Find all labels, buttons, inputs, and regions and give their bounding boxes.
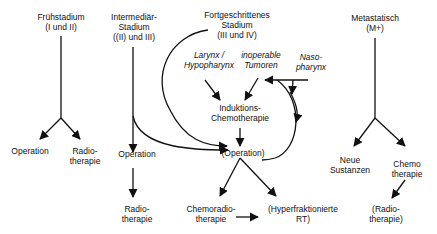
node-met-rt-line2: therapie) xyxy=(369,214,403,224)
node-early-rt-line2: therapie xyxy=(70,156,101,166)
node-hyperfrac-line2: RT) xyxy=(268,214,338,224)
edge-advanced-to-opt-op xyxy=(162,30,227,146)
node-new-subst-line1: Neue xyxy=(330,155,370,165)
subgroup-inoperable-line1: inoperable xyxy=(241,50,281,60)
edge-opt-op-hyperfrac xyxy=(240,158,276,196)
node-induction-line2: Chemotherapie xyxy=(211,113,269,123)
stage-intermediate-title: Intermediär- Stadium ((II) und III) xyxy=(111,12,157,42)
stage-metastatic-line2: (M+) xyxy=(351,23,399,33)
stage-metastatic-title: Metastatisch (M+) xyxy=(351,13,399,33)
node-chemoradiotherapy: Chemoradio- therapie xyxy=(186,204,235,224)
node-metastatic-chemotherapy: Chemo therapie xyxy=(392,159,423,179)
subgroup-nasopharynx: Naso- pharynx xyxy=(296,52,326,72)
node-new-subst-line2: Sustanzen xyxy=(330,165,370,175)
subgroup-inoperable-line2: Tumoren xyxy=(241,60,281,70)
edge-early-operation xyxy=(40,118,61,139)
edge-early-radiotherapy xyxy=(61,118,80,139)
stage-advanced-title: Fortgeschrittenes Stadium (III und IV) xyxy=(204,10,270,40)
subgroup-inoperable: inoperable Tumoren xyxy=(241,50,281,70)
node-intermediate-radiotherapy: Radio- therapie xyxy=(122,204,153,224)
stage-intermediate-line3: ((II) und III) xyxy=(111,32,157,42)
stage-early-line2: (I und II) xyxy=(37,22,84,32)
subgroup-larynx-line1: Larynx / xyxy=(184,50,234,60)
node-met-rt-line1: (Radio- xyxy=(369,204,403,214)
stage-early-line1: Frühstadium xyxy=(37,12,84,22)
stage-intermediate-line2: Stadium xyxy=(111,22,157,32)
node-early-rt-line1: Radio- xyxy=(70,146,101,156)
node-intermediate-operation: Operation xyxy=(118,149,155,159)
edge-opt-op-chemorad xyxy=(220,158,240,196)
subgroup-larynx: Larynx / Hypopharynx xyxy=(184,50,234,70)
node-induction-chemotherapy: Induktions- Chemotherapie xyxy=(211,103,269,123)
edge-naso-induction xyxy=(292,80,293,94)
node-chemorad-line1: Chemoradio- xyxy=(186,204,235,214)
node-hyperfrac-line1: (Hyperfraktionierte xyxy=(268,204,338,214)
subgroup-larynx-line2: Hypopharynx xyxy=(184,60,234,70)
node-inter-rt-line1: Radio- xyxy=(122,204,153,214)
stage-advanced-line3: (III und IV) xyxy=(204,30,270,40)
edge-met-new-substances xyxy=(354,118,375,146)
node-metastatic-radiotherapy: (Radio- therapie) xyxy=(369,204,403,224)
edge-inoperable-induction xyxy=(245,78,258,100)
node-chemo-line2: therapie xyxy=(392,169,423,179)
stage-advanced-line2: Stadium xyxy=(204,20,270,30)
stage-advanced-line1: Fortgeschrittenes xyxy=(204,10,270,20)
node-hyperfractionated-rt: (Hyperfraktionierte RT) xyxy=(268,204,338,224)
node-new-substances: Neue Sustanzen xyxy=(330,155,370,175)
edge-larynx-induction xyxy=(205,80,220,100)
node-induction-line1: Induktions- xyxy=(211,103,269,113)
node-chemo-line1: Chemo xyxy=(392,159,423,169)
node-early-operation: Operation xyxy=(11,146,48,156)
subgroup-naso-line1: Naso- xyxy=(296,52,326,62)
treatment-flowchart: Frühstadium (I und II) Intermediär- Stad… xyxy=(0,0,437,234)
subgroup-naso-line2: pharynx xyxy=(296,62,326,72)
edge-met-chemotherapy xyxy=(375,118,405,146)
stage-early-title: Frühstadium (I und II) xyxy=(37,12,84,32)
node-early-radiotherapy: Radio- therapie xyxy=(70,146,101,166)
node-chemorad-line2: therapie xyxy=(186,214,235,224)
node-optional-operation: (Operation) xyxy=(222,148,265,158)
node-inter-rt-line2: therapie xyxy=(122,214,153,224)
edge-chemo-radiotherapy xyxy=(392,180,405,198)
stage-intermediate-line1: Intermediär- xyxy=(111,12,157,22)
stage-metastatic-line1: Metastatisch xyxy=(351,13,399,23)
